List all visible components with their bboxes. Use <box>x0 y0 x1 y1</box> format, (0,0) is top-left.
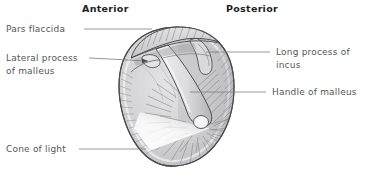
umbo <box>194 116 209 129</box>
label-lateral-process-line2: of malleus <box>6 66 55 76</box>
label-long-process-incus-line2: incus <box>276 60 301 70</box>
label-cone-of-light: Cone of light <box>6 144 66 154</box>
label-lateral-process-line1: Lateral process <box>6 53 78 63</box>
tympanic-membrane-figure: Anterior Posterior Pars flaccida Lateral… <box>0 0 368 177</box>
label-long-process-incus-line1: Long process of <box>276 47 350 57</box>
orientation-posterior: Posterior <box>226 3 278 14</box>
eardrum-drawing <box>119 27 234 166</box>
label-handle-of-malleus: Handle of malleus <box>272 87 357 97</box>
label-pars-flaccida: Pars flaccida <box>6 24 65 34</box>
orientation-anterior: Anterior <box>82 3 129 14</box>
